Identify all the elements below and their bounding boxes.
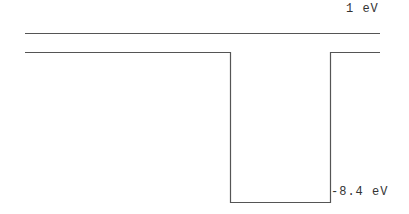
potential-well-diagram: 1 eV -8.4 eV [0,0,409,214]
top-level-label: 1 eV [346,2,379,16]
well-bottom-label: -8.4 eV [331,185,388,199]
diagram-lines [0,0,409,214]
potential-well-outline [25,53,380,203]
